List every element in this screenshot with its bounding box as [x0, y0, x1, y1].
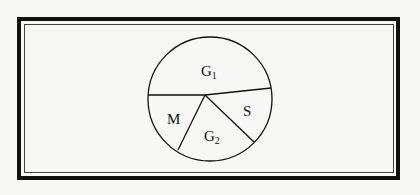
pie-diagram: G1 M G2 S: [0, 0, 420, 195]
divider-g1-s: [205, 88, 271, 95]
sector-label-s: S: [243, 103, 251, 119]
divider-m-g2: [178, 95, 205, 150]
sector-label-g1: G1: [201, 63, 217, 81]
sector-label-m: M: [167, 111, 180, 127]
sector-label-g2: G2: [204, 128, 220, 146]
